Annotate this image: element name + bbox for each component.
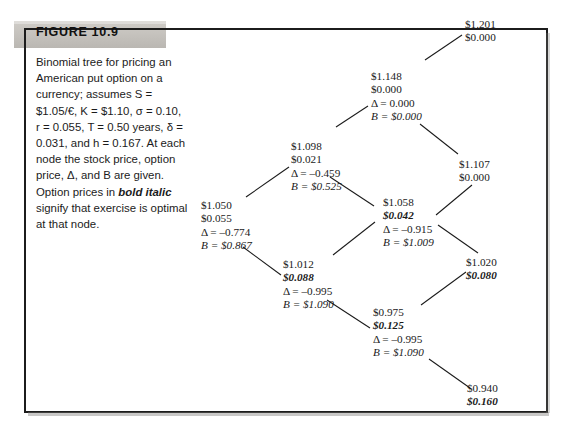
node-stock-price: $1.020 <box>466 256 497 269</box>
tree-node-n3ddd: $0.940 $0.160 <box>467 382 498 409</box>
edge-n2uu-n3uuu <box>425 35 462 60</box>
node-delta: Δ = 0.000 <box>371 97 422 110</box>
node-stock-price: $0.975 <box>373 306 424 319</box>
node-option-price: $0.021 <box>291 153 342 166</box>
node-bond: B = $0.000 <box>371 110 422 123</box>
edge-n1d-n2ud <box>333 222 375 255</box>
edge-n0-n1u <box>246 167 289 197</box>
figure-container: FIGURE 10.9 Binomial tree for pricing an… <box>0 0 571 439</box>
node-stock-price: $1.201 <box>465 18 496 31</box>
node-option-price: $0.000 <box>465 31 496 44</box>
node-bond: B = $0.867 <box>201 239 252 252</box>
node-delta: Δ = –0.995 <box>283 285 334 298</box>
node-delta: Δ = –0.774 <box>201 226 252 239</box>
edge-n2dd-n3ddd <box>429 359 470 388</box>
tree-node-n2dd: $0.975 $0.125 Δ = –0.995 B = $1.090 <box>373 306 424 360</box>
node-stock-price: $0.940 <box>467 382 498 395</box>
node-option-price: $0.125 <box>373 319 424 332</box>
node-delta: Δ = –0.915 <box>383 223 434 236</box>
tree-edges <box>0 0 571 439</box>
tree-node-n3uuu: $1.201 $0.000 <box>465 18 496 45</box>
node-stock-price: $1.107 <box>459 158 490 171</box>
edge-n1u-n2uu <box>336 106 368 127</box>
tree-node-n1u: $1.098 $0.021 Δ = –0.459 B = $0.525 <box>291 140 342 194</box>
tree-node-n3uud: $1.107 $0.000 <box>459 158 490 185</box>
edge-n2ud-n3uud <box>436 185 472 215</box>
node-option-price: $0.000 <box>459 171 490 184</box>
node-option-price: $0.080 <box>466 269 497 282</box>
edge-n2uu-n3uud <box>420 124 458 154</box>
node-stock-price: $1.050 <box>201 199 252 212</box>
tree-node-n3udd: $1.020 $0.080 <box>466 256 497 283</box>
node-stock-price: $1.148 <box>371 70 422 83</box>
tree-node-n2uu: $1.148 $0.000 Δ = 0.000 B = $0.000 <box>371 70 422 124</box>
node-bond: B = $1.009 <box>383 236 434 249</box>
node-option-price: $0.055 <box>201 212 252 225</box>
node-stock-price: $1.058 <box>383 196 434 209</box>
node-stock-price: $1.012 <box>283 258 334 271</box>
node-option-price: $0.042 <box>383 209 434 222</box>
node-bond: B = $1.090 <box>283 298 334 311</box>
node-option-price: $0.000 <box>371 83 422 96</box>
edge-n2dd-n3udd <box>421 272 466 305</box>
tree-node-n1d: $1.012 $0.088 Δ = –0.995 B = $1.090 <box>283 258 334 312</box>
node-option-price: $0.088 <box>283 271 334 284</box>
tree-node-n2ud: $1.058 $0.042 Δ = –0.915 B = $1.009 <box>383 196 434 250</box>
edge-n2ud-n3udd <box>438 225 478 253</box>
node-delta: Δ = –0.459 <box>291 167 342 180</box>
binomial-tree: $1.050 $0.055 Δ = –0.774 B = $0.867 $1.0… <box>0 0 571 439</box>
node-bond: B = $1.090 <box>373 346 424 359</box>
node-delta: Δ = –0.995 <box>373 333 424 346</box>
node-option-price: $0.160 <box>467 395 498 408</box>
node-stock-price: $1.098 <box>291 140 342 153</box>
node-bond: B = $0.525 <box>291 180 342 193</box>
tree-node-n0: $1.050 $0.055 Δ = –0.774 B = $0.867 <box>201 199 252 253</box>
